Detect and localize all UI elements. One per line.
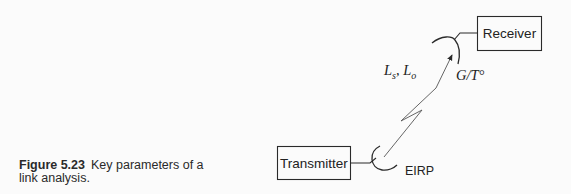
figure-number: Figure 5.23 — [19, 158, 85, 172]
eirp-label: EIRP — [405, 164, 434, 178]
losses-label: Ls, Lo — [384, 62, 416, 81]
receiver-dish-icon — [432, 37, 459, 64]
lo-symbol: , L — [396, 62, 411, 78]
gt-label: G/T° — [456, 67, 484, 84]
receiver-feed-line — [454, 33, 478, 40]
figure-caption: Figure 5.23Key parameters of a link anal… — [19, 159, 219, 185]
receiver-label: Receiver — [478, 17, 541, 50]
transmitter-label: Transmitter — [278, 147, 350, 180]
ls-symbol: L — [384, 62, 392, 78]
lo-subscript: o — [411, 70, 416, 81]
